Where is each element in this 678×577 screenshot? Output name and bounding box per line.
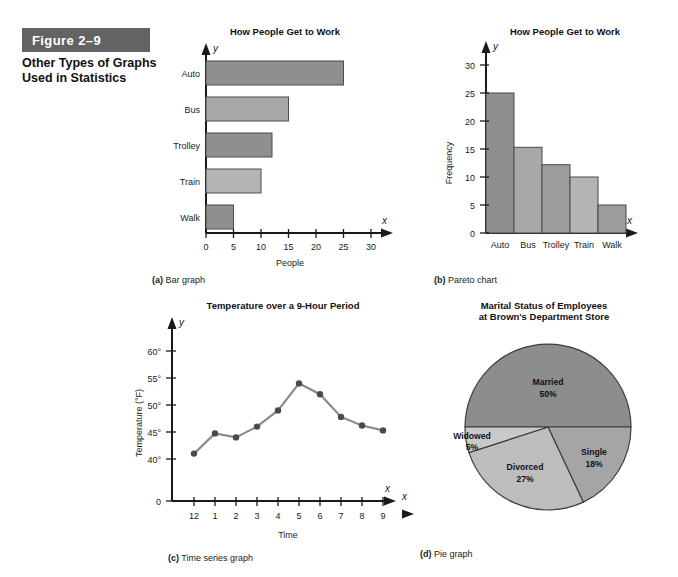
panel-c-caption-label: (c) [168,553,179,563]
pareto-ytick-0: 0 [470,229,475,239]
pareto-ytick-5: 5 [470,201,475,211]
pareto-bar-trolley [542,165,570,233]
pareto-chart-title: How People Get to Work [458,26,672,37]
ts-xtick-1: 1 [212,511,217,521]
ts-x-axis-name: Time [278,530,298,540]
bar-cat-auto: Auto [181,69,200,79]
bar-cat-walk: Walk [180,213,200,223]
pareto-ytick-10: 10 [465,173,475,183]
ts-xtick-5: 5 [296,511,301,521]
ts-ytick-40: 40° [147,455,161,465]
figure-number-banner: Figure 2–9 [22,28,150,52]
bar-trolley [206,133,272,157]
pareto-cat-trolley: Trolley [543,240,570,250]
pareto-cat-auto: Auto [491,240,510,250]
bar-graph-title: How People Get to Work [170,26,400,37]
bar-xtick-25: 25 [338,242,348,252]
bar-xtick-20: 20 [311,242,321,252]
panel-d-caption-text: Pie graph [434,549,473,559]
pie-graph-svg: Married 50% Single 18% Divorced 27% Wido… [400,322,678,547]
bar-graph-svg: y x Auto Bus Trolley Train Walk 0 [150,37,400,269]
ts-ytick-55: 55° [147,374,161,384]
pareto-ytick-30: 30 [465,61,475,71]
pie-label-married-name: Married [532,377,563,387]
panel-pie-graph: Marital Status of Employees at Brown's D… [400,300,678,570]
pareto-bar-train [570,177,598,233]
panel-b-caption: (b) Pareto chart [434,275,672,285]
pareto-cat-train: Train [574,240,594,250]
bar-x-axis-var: x [381,215,388,226]
pareto-cat-bus: Bus [520,240,536,250]
ts-xtick-3: 3 [254,511,259,521]
ts-x-axis-var: x [384,483,391,494]
ts-point [275,407,281,413]
bar-auto [206,61,344,85]
panel-bar-graph: How People Get to Work y x Auto Bus Trol… [150,26,400,291]
bar-xtick-30: 30 [366,242,376,252]
panel-b-caption-text: Pareto chart [448,275,497,285]
bar-cat-train: Train [180,177,200,187]
pie-label-single-name: Single [581,447,607,457]
pie-label-single-pct: 18% [585,459,603,469]
pareto-x-axis-var: x [626,215,633,226]
ts-ytick-0: 0 [156,497,161,507]
panel-d-caption: (d) Pie graph [420,549,678,559]
pie-label-divorced-name: Divorced [507,462,544,472]
pie-title-line2: at Brown's Department Store [410,311,678,322]
pareto-bar-auto [486,93,514,233]
ts-point [317,391,323,397]
pareto-bar-walk [598,205,626,233]
ts-point [254,423,260,429]
panel-time-series-graph: Temperature over a 9-Hour Period y x 0 4… [128,300,408,570]
ts-markers [191,380,386,457]
ts-point [338,414,344,420]
bar-series [206,61,344,229]
pareto-bar-bus [514,147,542,233]
ts-y-axis-name: Temperature (°F) [134,389,144,457]
pareto-ytick-25: 25 [465,89,475,99]
ts-xtick-7: 7 [338,511,343,521]
panel-b-caption-label: (b) [434,275,446,285]
ts-xtick-4: 4 [275,511,280,521]
bar-walk [206,205,234,229]
ts-ytick-60: 60° [147,347,161,357]
ts-xtick-9: 9 [380,511,385,521]
panel-c-caption: (c) Time series graph [168,553,408,563]
pie-graph-title: Marital Status of Employees at Brown's D… [410,300,678,322]
ts-y-axis-var: y [178,317,185,328]
ts-line [194,383,383,453]
ts-point [359,422,365,428]
bar-train [206,169,261,193]
panel-a-caption-text: Bar graph [166,275,206,285]
ts-point [296,380,302,386]
ts-xtick-8: 8 [359,511,364,521]
bar-x-axis-name: People [276,258,304,268]
ts-point [233,434,239,440]
pareto-cat-walk: Walk [602,240,622,250]
bar-y-axis-var: y [212,43,219,54]
pareto-ytick-20: 20 [465,117,475,127]
ts-point [191,450,197,456]
pie-label-widowed-name: Widowed [453,431,491,441]
bar-xtick-15: 15 [283,242,293,252]
bar-xtick-5: 5 [231,242,236,252]
panel-a-caption-label: (a) [152,275,163,285]
panel-a-caption: (a) Bar graph [152,275,400,285]
panel-d-caption-label: (d) [420,549,432,559]
pareto-chart-svg: y x 0 5 10 15 20 25 30 Auto [432,37,672,269]
bar-cat-trolley: Trolley [173,141,200,151]
pie-label-married-pct: 50% [539,389,557,399]
pie-label-divorced-pct: 27% [516,474,534,484]
bar-xtick-0: 0 [203,242,208,252]
ts-point [212,430,218,436]
ts-ytick-45: 45° [147,428,161,438]
ts-xtick-12: 12 [189,511,199,521]
ts-xtick-6: 6 [317,511,322,521]
panel-c-caption-text: Time series graph [181,553,253,563]
pareto-ytick-15: 15 [465,145,475,155]
pie-title-line1: Marital Status of Employees [410,300,678,311]
ts-ytick-50: 50° [147,401,161,411]
bar-cat-bus: Bus [184,105,200,115]
pareto-y-axis-name: Frequency [444,141,454,184]
time-series-title: Temperature over a 9-Hour Period [158,300,408,311]
